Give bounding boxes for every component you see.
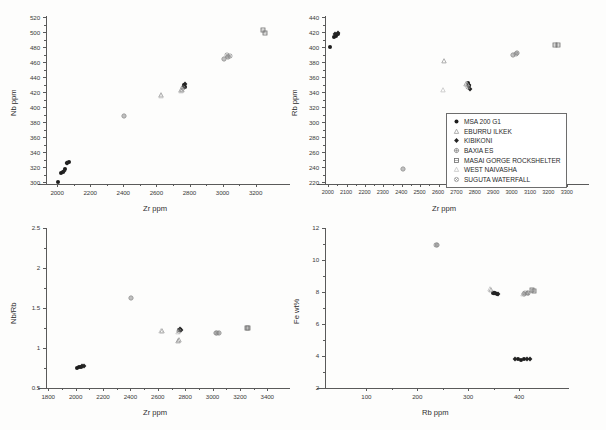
y-tick bbox=[322, 228, 325, 229]
legend-marker-icon bbox=[451, 147, 462, 154]
y-tick-label: 2 bbox=[299, 384, 319, 391]
legend-item[interactable]: KIBIKONI bbox=[451, 136, 561, 146]
legend-marker-icon bbox=[451, 157, 462, 164]
y-tick bbox=[322, 324, 325, 325]
legend-label: BAXIA ES bbox=[464, 147, 493, 154]
panel-fe-vs-rb: 24681012100200300400Rb ppmFe wt% bbox=[0, 0, 606, 430]
data-point bbox=[526, 356, 533, 363]
legend-label: MSA 200 G1 bbox=[464, 118, 501, 125]
x-minor-tick bbox=[392, 388, 393, 390]
data-point bbox=[512, 356, 519, 363]
legend-item[interactable]: MASAI GORGE ROCKSHELTER bbox=[451, 155, 561, 165]
y-tick bbox=[322, 388, 325, 389]
x-tick bbox=[519, 388, 520, 391]
y-tick-label: 8 bbox=[299, 288, 319, 295]
legend-item[interactable]: EBURRU ILKEK bbox=[451, 127, 561, 137]
x-tick-label: 400 bbox=[514, 393, 524, 400]
data-point bbox=[495, 290, 502, 297]
x-tick bbox=[468, 388, 469, 391]
y-tick bbox=[322, 260, 325, 261]
y-tick-label: 6 bbox=[299, 320, 319, 327]
y-tick-label: 10 bbox=[299, 256, 319, 263]
legend-marker-icon bbox=[451, 166, 462, 173]
legend-label: MASAI GORGE ROCKSHELTER bbox=[464, 157, 561, 164]
data-point bbox=[530, 288, 537, 295]
y-tick-label: 12 bbox=[299, 224, 319, 231]
figure-container: 3003203403603804004204404604805005202000… bbox=[0, 0, 606, 430]
data-point bbox=[432, 241, 439, 248]
y-minor-tick bbox=[323, 372, 325, 373]
x-tick-label: 100 bbox=[361, 393, 371, 400]
legend-label: SUGUTA WATERFALL bbox=[464, 176, 530, 183]
legend: MSA 200 G1EBURRU ILKEKKIBIKONIBAXIA ESMA… bbox=[446, 113, 567, 188]
x-tick-label: 200 bbox=[412, 393, 422, 400]
y-minor-tick bbox=[323, 340, 325, 341]
legend-marker-icon bbox=[451, 128, 462, 135]
legend-label: WEST NAIVASHA bbox=[464, 166, 517, 173]
legend-marker-icon bbox=[451, 176, 462, 183]
y-tick bbox=[322, 356, 325, 357]
data-point bbox=[522, 290, 529, 297]
x-tick-label: 300 bbox=[463, 393, 473, 400]
y-axis-title: Fe wt% bbox=[292, 299, 301, 324]
y-tick-label: 4 bbox=[299, 352, 319, 359]
y-minor-tick bbox=[323, 244, 325, 245]
y-tick bbox=[322, 292, 325, 293]
legend-marker-icon bbox=[451, 118, 462, 125]
legend-label: EBURRU ILKEK bbox=[464, 128, 512, 135]
legend-label: KIBIKONI bbox=[464, 137, 492, 144]
x-tick bbox=[366, 388, 367, 391]
legend-item[interactable]: SUGUTA WATERFALL bbox=[451, 175, 561, 185]
x-minor-tick bbox=[494, 388, 495, 390]
x-minor-tick bbox=[443, 388, 444, 390]
y-minor-tick bbox=[323, 276, 325, 277]
y-minor-tick bbox=[323, 308, 325, 309]
legend-item[interactable]: BAXIA ES bbox=[451, 146, 561, 156]
legend-item[interactable]: WEST NAIVASHA bbox=[451, 165, 561, 175]
x-tick bbox=[417, 388, 418, 391]
x-axis-title: Rb ppm bbox=[422, 408, 449, 417]
data-point bbox=[486, 286, 493, 293]
legend-marker-icon bbox=[451, 137, 462, 144]
legend-item[interactable]: MSA 200 G1 bbox=[451, 117, 561, 127]
